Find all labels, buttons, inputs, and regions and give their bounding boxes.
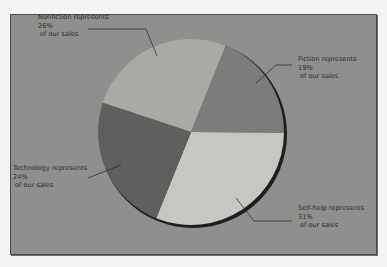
- data-label-nonfiction-line-2: 26%: [38, 22, 53, 30]
- data-label-fiction-line-2: 19%: [298, 64, 313, 72]
- data-label-self-help-line-2: 31%: [298, 213, 313, 221]
- data-label-self-help-line-1: Self-help represents: [298, 204, 364, 212]
- data-label-fiction-line-3: of our sales: [300, 72, 339, 80]
- data-label-fiction-line-1: Fiction represents: [298, 55, 357, 63]
- pie-chart: Fiction represents19% of our salesSelf-h…: [0, 0, 387, 267]
- data-label-nonfiction-line-1: Nonfiction represents: [38, 13, 109, 21]
- data-label-technology-line-2: 24%: [13, 173, 28, 181]
- data-label-technology-line-1: Technology represents: [12, 164, 88, 172]
- data-label-self-help-line-3: of our sales: [300, 221, 339, 229]
- data-label-technology-line-3: of our sales: [15, 181, 54, 189]
- data-label-nonfiction-line-3: of our sales: [40, 30, 79, 38]
